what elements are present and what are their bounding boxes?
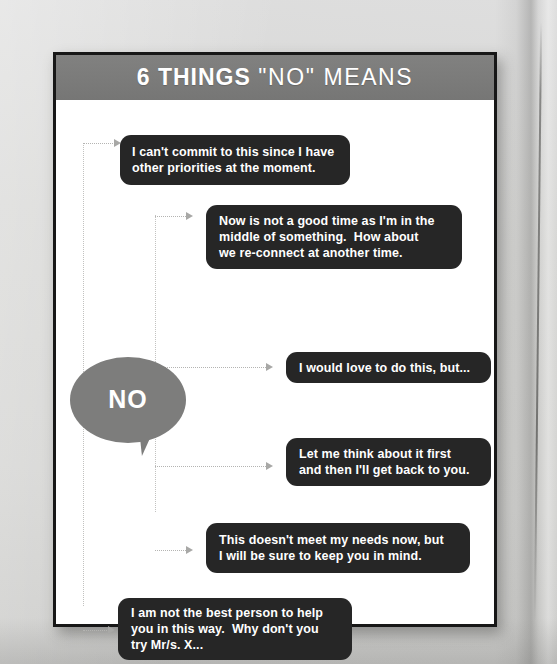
infographic-card: 6 THINGS "NO" MEANS NO: [53, 52, 497, 627]
connector-branch-1: [83, 143, 117, 144]
no-speech-bubble: NO: [70, 357, 186, 443]
connector-branch-5: [155, 550, 188, 551]
message-line: I will be sure to keep you in mind.: [219, 548, 457, 564]
connector-branch-4: [155, 466, 268, 467]
connector-arrow-4: [266, 462, 273, 470]
page-title: 6 THINGS "NO" MEANS: [137, 64, 413, 91]
message-line: you in this way. Why don't you: [131, 621, 339, 637]
message-line: Now is not a good time as I'm in the: [219, 213, 449, 229]
message-line: I am not the best person to help: [131, 605, 339, 621]
connector-branch-2: [155, 216, 188, 217]
message-line: try Mr/s. X...: [131, 637, 339, 653]
no-speech-bubble-label: NO: [108, 385, 148, 414]
page-right-edge-shadow: [495, 0, 557, 664]
page-title-light: "NO" MEANS: [258, 64, 413, 90]
message-line: we re-connect at another time.: [219, 245, 449, 261]
connector-arrow-6: [108, 626, 115, 634]
message-line: I can't commit to this since I have: [132, 144, 338, 160]
page-title-strong: 6 THINGS: [137, 64, 251, 90]
connector-arrow-3: [266, 363, 273, 371]
connector-arrow-2: [186, 212, 193, 220]
connector-arrow-5: [186, 546, 193, 554]
connector-branch-6: [83, 630, 111, 631]
message-box-1: I can't commit to this since I have othe…: [120, 135, 350, 185]
message-line: middle of something. How about: [219, 229, 449, 245]
message-box-5: This doesn't meet my needs now, but I wi…: [206, 523, 470, 573]
message-box-3: I would love to do this, but...: [286, 352, 491, 383]
message-line: I would love to do this, but...: [299, 360, 478, 376]
message-line: Let me think about it first: [299, 446, 478, 462]
message-line: other priorities at the moment.: [132, 160, 338, 176]
message-box-6: I am not the best person to help you in …: [118, 598, 352, 660]
no-speech-bubble-body: NO: [70, 357, 186, 443]
message-box-2: Now is not a good time as I'm in the mid…: [206, 205, 462, 269]
message-line: This doesn't meet my needs now, but: [219, 532, 457, 548]
header-band: 6 THINGS "NO" MEANS: [56, 55, 494, 100]
message-line: and then I'll get back to you.: [299, 462, 478, 478]
diagram-canvas: NO I can't commit to this since I have o…: [56, 100, 494, 624]
message-box-4: Let me think about it first and then I'l…: [286, 438, 491, 486]
